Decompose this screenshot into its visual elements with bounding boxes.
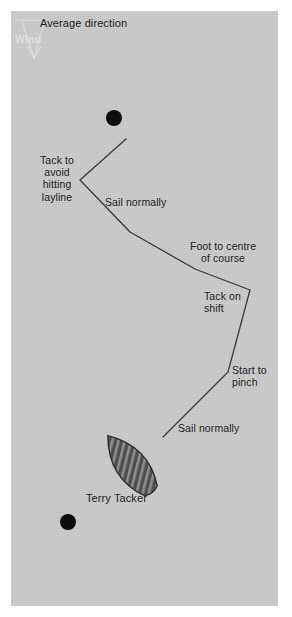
- wind-label: Wind: [15, 33, 41, 45]
- windward-mark: [106, 110, 122, 126]
- tack-to-avoid-layline-label: Tack to avoid hitting layline: [29, 154, 85, 203]
- start-to-pinch-label: Start to pinch: [232, 364, 267, 388]
- leeward-mark: [60, 514, 76, 530]
- boat-track: [80, 139, 250, 437]
- sail-normally-lower-label: Sail normally: [178, 422, 239, 434]
- sail-normally-upper-label: Sail normally: [105, 196, 166, 208]
- average-direction-label: Average direction: [40, 17, 127, 29]
- foot-to-centre-label: Foot to centre of course: [180, 240, 266, 264]
- boat-name-label: Terry Tacker: [86, 492, 147, 504]
- tack-on-shift-label: Tack on shift: [204, 290, 241, 314]
- sailing-tactics-diagram: Average direction Wind Tack to avoid hit…: [0, 0, 292, 617]
- diagram-vector-layer: [0, 0, 292, 617]
- terry-tacker-hull: [96, 426, 165, 502]
